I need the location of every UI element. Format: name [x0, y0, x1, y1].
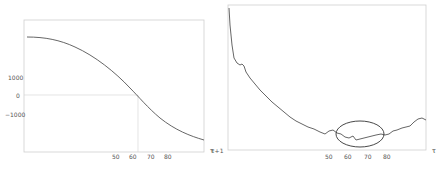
right-chart: τ+1 50 60 70 80 τ: [211, 5, 436, 160]
right-plot-frame: [228, 5, 426, 150]
left-xtick-60: 60: [129, 153, 137, 160]
minimum-region-ellipse: [336, 121, 384, 147]
left-xtick-50: 50: [112, 153, 120, 160]
left-curve: [27, 37, 204, 140]
right-xlabel: τ: [432, 147, 436, 155]
right-curve: [229, 8, 426, 140]
figure: 1000 0 −1000 50 60 70 80 τ τ+1 50 60 70 …: [0, 0, 444, 169]
right-xtick-70: 70: [364, 153, 372, 160]
left-chart: 1000 0 −1000 50 60 70 80 τ: [5, 20, 214, 160]
left-ytick-1000: 1000: [8, 74, 23, 81]
left-xtick-70: 70: [147, 153, 155, 160]
right-xtick-60: 60: [344, 153, 352, 160]
left-plot-frame: [24, 20, 204, 152]
right-ylabel: τ+1: [211, 147, 224, 154]
left-ytick-minus-1000: −1000: [5, 111, 25, 118]
left-ytick-0: 0: [16, 92, 20, 99]
right-xtick-80: 80: [383, 153, 391, 160]
left-xtick-80: 80: [164, 153, 172, 160]
right-xtick-50: 50: [325, 153, 333, 160]
